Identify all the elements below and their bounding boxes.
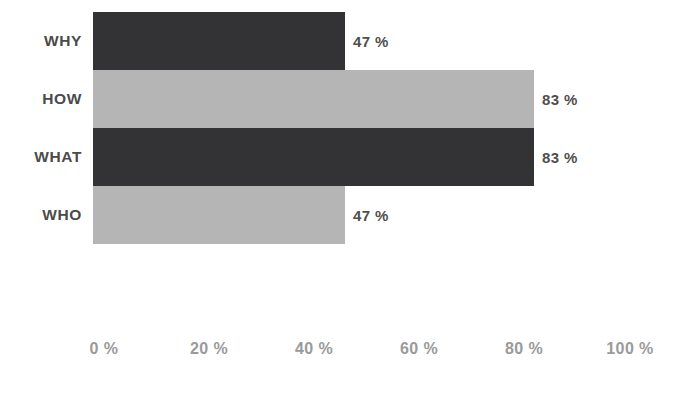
bar-row: WHAT 83 % bbox=[0, 128, 688, 186]
x-tick-20: 20 % bbox=[190, 340, 228, 358]
category-label-how: HOW bbox=[0, 70, 82, 128]
bar-row: WHO 47 % bbox=[0, 186, 688, 244]
category-label-why: WHY bbox=[0, 12, 82, 70]
bar-value-why: 47 % bbox=[353, 12, 389, 70]
bar-why[interactable] bbox=[93, 12, 345, 70]
x-tick-0: 0 % bbox=[90, 340, 119, 358]
x-tick-40: 40 % bbox=[295, 340, 333, 358]
bar-what[interactable] bbox=[93, 128, 534, 186]
category-label-who: WHO bbox=[0, 186, 82, 244]
bar-value-what: 83 % bbox=[542, 128, 578, 186]
bar-row: HOW 83 % bbox=[0, 70, 688, 128]
x-tick-80: 80 % bbox=[505, 340, 543, 358]
bar-value-how: 83 % bbox=[542, 70, 578, 128]
bar-chart: WHY 47 % HOW 83 % WHAT 83 % WHO 47 % 0 %… bbox=[0, 0, 688, 393]
category-label-what: WHAT bbox=[0, 128, 82, 186]
bar-value-who: 47 % bbox=[353, 186, 389, 244]
bar-how[interactable] bbox=[93, 70, 534, 128]
plot-area: WHY 47 % HOW 83 % WHAT 83 % WHO 47 % bbox=[0, 0, 688, 300]
x-tick-100: 100 % bbox=[606, 340, 653, 358]
x-axis: 0 % 20 % 40 % 60 % 80 % 100 % bbox=[0, 340, 688, 370]
bar-row: WHY 47 % bbox=[0, 12, 688, 70]
x-tick-60: 60 % bbox=[400, 340, 438, 358]
bar-who[interactable] bbox=[93, 186, 345, 244]
